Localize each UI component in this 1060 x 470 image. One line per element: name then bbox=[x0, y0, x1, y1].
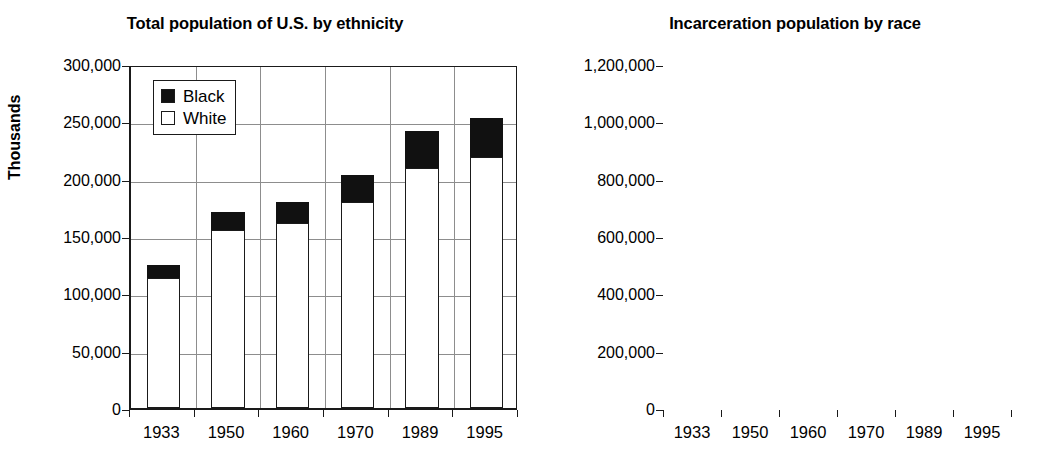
y-tick-label: 200,000 bbox=[63, 173, 121, 189]
y-tick-mark bbox=[122, 353, 129, 354]
bar-segment-white bbox=[405, 168, 439, 408]
bar-segment-white bbox=[341, 202, 375, 408]
y-tick-label: 250,000 bbox=[63, 115, 121, 131]
y-tick-mark bbox=[656, 410, 663, 411]
y-tick-label: 300,000 bbox=[63, 58, 121, 74]
y-tick-label: 1,000,000 bbox=[584, 115, 655, 131]
y-tick-label: 0 bbox=[112, 402, 121, 418]
category-divider bbox=[260, 67, 261, 408]
y-tick-label: 150,000 bbox=[63, 230, 121, 246]
legend-label-black: Black bbox=[183, 88, 225, 105]
gridline bbox=[131, 239, 516, 240]
x-tick-label: 1995 bbox=[942, 424, 1022, 441]
y-tick-mark bbox=[656, 295, 663, 296]
x-tick-mark bbox=[721, 410, 722, 417]
legend-item-white: White bbox=[161, 107, 226, 129]
y-tick-mark bbox=[656, 181, 663, 182]
y-tick-label: 400,000 bbox=[597, 287, 655, 303]
x-tick-mark bbox=[452, 410, 453, 417]
gridline bbox=[131, 296, 516, 297]
plot-area-left: Black White bbox=[129, 66, 517, 410]
category-divider bbox=[390, 67, 391, 408]
y-tick-label: 800,000 bbox=[597, 173, 655, 189]
y-tick-mark bbox=[656, 66, 663, 67]
y-tick-label: 200,000 bbox=[597, 345, 655, 361]
legend-item-black: Black bbox=[161, 85, 226, 107]
x-tick-mark bbox=[258, 410, 259, 417]
y-tick-mark bbox=[122, 181, 129, 182]
chart-title-left: Total population of U.S. by ethnicity bbox=[0, 14, 530, 33]
x-tick-mark bbox=[837, 410, 838, 417]
bar-segment-white bbox=[470, 157, 504, 408]
category-divider bbox=[454, 67, 455, 408]
y-tick-mark bbox=[122, 410, 129, 411]
bar-segment-black bbox=[211, 212, 245, 230]
y-tick-label: 600,000 bbox=[597, 230, 655, 246]
y-tick-mark bbox=[122, 123, 129, 124]
chart-panel-incarceration: Incarceration population by race 1,200,0… bbox=[530, 0, 1060, 470]
x-tick-mark bbox=[1011, 410, 1012, 417]
y-tick-mark bbox=[656, 123, 663, 124]
y-tick-mark bbox=[122, 295, 129, 296]
x-tick-mark bbox=[953, 410, 954, 417]
gridline bbox=[131, 182, 516, 183]
y-tick-label: 100,000 bbox=[63, 287, 121, 303]
y-tick-label: 1,200,000 bbox=[584, 58, 655, 74]
legend-label-white: White bbox=[183, 110, 226, 127]
bar-segment-black bbox=[147, 265, 181, 279]
bar-segment-black bbox=[276, 202, 310, 224]
x-tick-mark bbox=[895, 410, 896, 417]
bar-segment-black bbox=[341, 175, 375, 201]
x-tick-mark bbox=[663, 410, 664, 417]
category-divider bbox=[325, 67, 326, 408]
x-tick-mark bbox=[517, 410, 518, 417]
y-tick-label: 50,000 bbox=[72, 345, 121, 361]
x-tick-mark bbox=[779, 410, 780, 417]
x-tick-mark bbox=[129, 410, 130, 417]
y-tick-mark bbox=[656, 353, 663, 354]
chart-title-right: Incarceration population by race bbox=[530, 14, 1060, 33]
figure-container: Total population of U.S. by ethnicity Th… bbox=[0, 0, 1060, 470]
y-tick-mark bbox=[122, 238, 129, 239]
bar-segment-white bbox=[276, 223, 310, 408]
legend-swatch-white-icon bbox=[161, 111, 175, 125]
legend-swatch-black-icon bbox=[161, 89, 175, 103]
y-tick-label: 0 bbox=[646, 402, 655, 418]
legend: Black White bbox=[153, 80, 236, 135]
y-axis-title-left: Thousands bbox=[6, 95, 24, 180]
bar-segment-white bbox=[211, 230, 245, 408]
x-tick-mark bbox=[388, 410, 389, 417]
bar-segment-black bbox=[470, 118, 504, 157]
gridline bbox=[131, 354, 516, 355]
x-tick-mark bbox=[194, 410, 195, 417]
x-tick-mark bbox=[323, 410, 324, 417]
bar-segment-black bbox=[405, 131, 439, 169]
chart-panel-population: Total population of U.S. by ethnicity Th… bbox=[0, 0, 530, 470]
y-tick-mark bbox=[656, 238, 663, 239]
bar-segment-white bbox=[147, 278, 181, 408]
y-tick-mark bbox=[122, 66, 129, 67]
x-tick-label: 1995 bbox=[445, 424, 525, 441]
